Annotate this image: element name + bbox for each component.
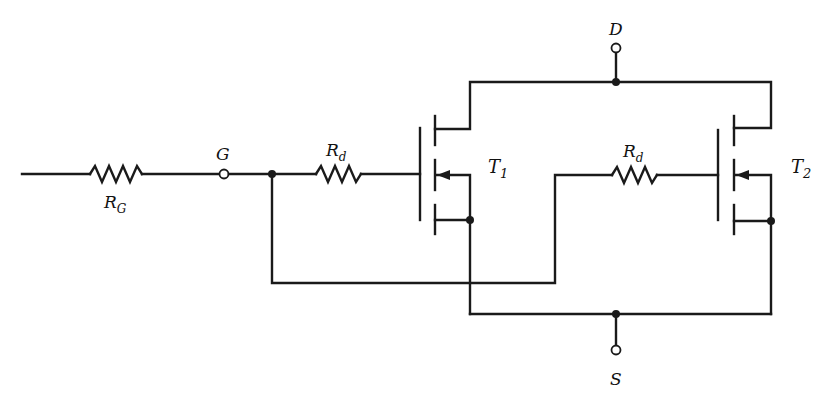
resistor-rd1 bbox=[316, 166, 361, 182]
label-d: D bbox=[608, 19, 623, 39]
circuit-schematic: G D S RG Rd Rd T1 T2 bbox=[0, 0, 832, 398]
label-t1: T1 bbox=[488, 156, 508, 181]
wire-gate-bus bbox=[272, 174, 612, 283]
label-t2: T2 bbox=[791, 156, 811, 181]
label-rd2: Rd bbox=[622, 141, 644, 165]
label-s: S bbox=[610, 369, 622, 389]
resistor-rd2 bbox=[612, 167, 657, 183]
label-rg: RG bbox=[103, 192, 127, 216]
gate-terminal[interactable] bbox=[220, 170, 229, 179]
resistor-rg bbox=[90, 166, 142, 182]
label-rd1: Rd bbox=[325, 140, 347, 164]
transistor-t1 bbox=[420, 82, 616, 314]
label-g: G bbox=[216, 144, 230, 164]
source-terminal[interactable] bbox=[612, 346, 621, 355]
transistor-t2 bbox=[616, 82, 775, 314]
drain-terminal[interactable] bbox=[612, 44, 621, 53]
